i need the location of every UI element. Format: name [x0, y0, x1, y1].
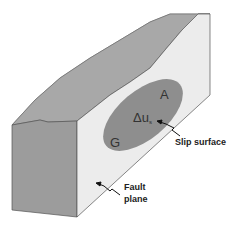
slip-label: Δus: [133, 111, 152, 125]
block-front-face: [12, 120, 77, 217]
fault-plane-label-line2: plane: [124, 195, 148, 204]
slip-surface-label: Slip surface: [175, 138, 226, 147]
fault-block-diagram: [0, 0, 241, 229]
modulus-label: G: [110, 136, 120, 149]
slip-subscript: s: [149, 119, 152, 125]
area-label: A: [160, 88, 169, 101]
slip-symbol: Δu: [133, 110, 149, 125]
fault-plane-label-line1: Fault: [124, 183, 146, 192]
